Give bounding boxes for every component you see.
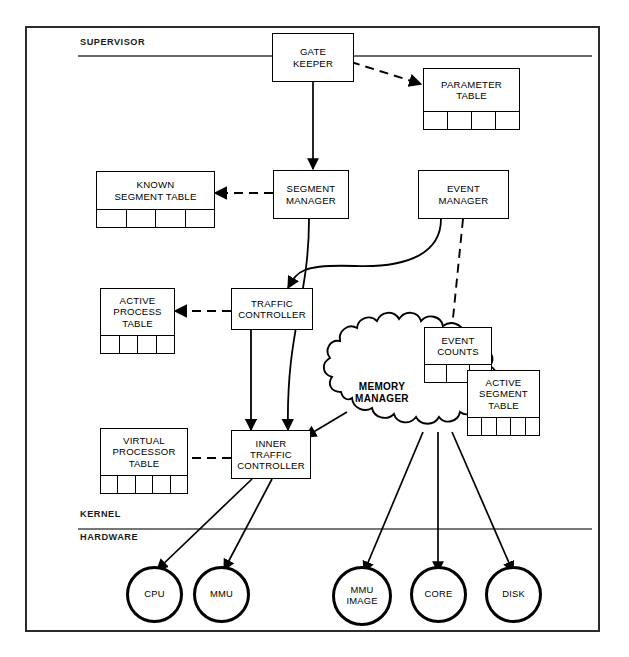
table-cell — [497, 418, 511, 435]
table-cell — [120, 336, 139, 353]
table-cell — [118, 476, 135, 493]
hardware-node-mmu-label: MMU — [210, 589, 233, 600]
edge-memorymanager-to-disk — [452, 432, 513, 572]
table-cell — [138, 336, 157, 353]
hardware-node-core[interactable]: CORE — [410, 566, 467, 623]
node-active-segment-table[interactable]: ACTIVE SEGMENT TABLE — [467, 370, 540, 436]
node-known-segment-table-label: KNOWN SEGMENT TABLE — [97, 172, 214, 209]
node-gate-keeper[interactable]: GATE KEEPER — [272, 33, 354, 82]
node-active-process-table[interactable]: ACTIVE PROCESS TABLE — [100, 288, 175, 354]
table-cell — [496, 112, 519, 129]
edge-innertrafficcontroller-to-mmu — [224, 479, 272, 570]
edge-gatekeeper-to-parametertable — [351, 62, 421, 84]
layer-label-kernel: KERNEL — [80, 509, 121, 519]
table-cell — [482, 418, 496, 435]
node-active-segment-table-cells — [468, 417, 539, 435]
node-gate-keeper-label: GATE KEEPER — [273, 34, 353, 81]
table-cell — [468, 418, 482, 435]
table-cell — [97, 210, 127, 227]
hardware-node-cpu-label: CPU — [144, 589, 164, 600]
node-virtual-processor-table[interactable]: VIRTUAL PROCESSOR TABLE — [100, 428, 188, 494]
node-event-manager-label: EVENT MANAGER — [419, 171, 508, 218]
table-cell — [156, 210, 186, 227]
hardware-node-disk-label: DISK — [502, 589, 525, 600]
diagram-canvas: SUPERVISOR KERNEL HARDWARE GATE KEEPER P… — [0, 0, 629, 657]
node-traffic-controller-label: TRAFFIC CONTROLLER — [232, 289, 312, 329]
node-segment-manager[interactable]: SEGMENT MANAGER — [273, 170, 349, 219]
hardware-node-mmu-image-label: MMU IMAGE — [346, 585, 377, 607]
hardware-node-mmu-image[interactable]: MMU IMAGE — [332, 566, 392, 626]
node-segment-manager-label: SEGMENT MANAGER — [274, 171, 348, 218]
table-cell — [186, 210, 215, 227]
node-known-segment-table-cells — [97, 209, 214, 227]
table-cell — [153, 476, 170, 493]
node-event-manager[interactable]: EVENT MANAGER — [418, 170, 509, 219]
table-cell — [101, 476, 118, 493]
table-cell — [157, 336, 175, 353]
table-cell — [472, 112, 496, 129]
hardware-node-cpu[interactable]: CPU — [126, 566, 183, 623]
table-cell — [448, 112, 472, 129]
node-event-counts-label: EVENT COUNTS — [425, 328, 491, 364]
hardware-node-disk[interactable]: DISK — [485, 566, 542, 623]
node-active-process-table-cells — [101, 335, 174, 353]
layer-label-hardware: HARDWARE — [80, 532, 138, 542]
table-cell — [171, 476, 187, 493]
node-parameter-table[interactable]: PARAMETER TABLE — [423, 68, 520, 130]
table-cell — [511, 418, 525, 435]
node-traffic-controller[interactable]: TRAFFIC CONTROLLER — [231, 288, 313, 330]
node-active-segment-table-label: ACTIVE SEGMENT TABLE — [468, 371, 539, 417]
table-cell — [127, 210, 157, 227]
node-parameter-table-cells — [424, 111, 519, 129]
hardware-node-mmu[interactable]: MMU — [193, 566, 250, 623]
node-memory-manager-label: MEMORY MANAGER — [346, 381, 418, 405]
node-parameter-table-label: PARAMETER TABLE — [424, 69, 519, 111]
node-inner-traffic-controller-label: INNER TRAFFIC CONTROLLER — [232, 431, 310, 478]
table-cell — [425, 365, 447, 382]
node-virtual-processor-table-cells — [101, 475, 187, 493]
edge-eventmanager-to-trafficcontroller — [288, 219, 441, 288]
edge-memorymanager-to-innertrafficcontroller — [305, 412, 347, 437]
node-known-segment-table[interactable]: KNOWN SEGMENT TABLE — [96, 171, 215, 228]
table-cell — [526, 418, 539, 435]
node-inner-traffic-controller[interactable]: INNER TRAFFIC CONTROLLER — [231, 430, 311, 479]
edge-memorymanager-to-mmuimage — [364, 432, 423, 572]
node-active-process-table-label: ACTIVE PROCESS TABLE — [101, 289, 174, 335]
hardware-node-core-label: CORE — [425, 589, 453, 600]
connector-layer — [0, 0, 629, 657]
layer-label-supervisor: SUPERVISOR — [80, 37, 145, 47]
table-cell — [101, 336, 120, 353]
table-cell — [424, 112, 448, 129]
node-virtual-processor-table-label: VIRTUAL PROCESSOR TABLE — [101, 429, 187, 475]
table-cell — [136, 476, 153, 493]
